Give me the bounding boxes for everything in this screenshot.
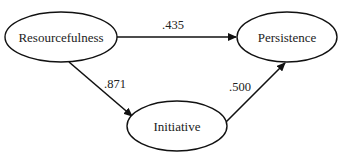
edge-label-coefficient: .435 (162, 18, 184, 32)
edge-label-coefficient: .871 (104, 77, 126, 91)
node-label: Initiative (154, 119, 201, 134)
edge-initiative-persistence: .500 (226, 63, 285, 122)
node-persistence: Persistence (237, 12, 337, 62)
edge-label-coefficient: .500 (229, 80, 251, 94)
edge-resourcefulness-persistence: .435 (117, 18, 236, 37)
edge-resourcefulness-initiative: .871 (69, 62, 132, 116)
path-diagram: .435 .871 .500 Resourcefulness Persisten… (0, 0, 351, 158)
node-label: Resourcefulness (18, 30, 103, 45)
node-initiative: Initiative (127, 101, 227, 151)
node-resourcefulness: Resourcefulness (5, 12, 117, 62)
node-label: Persistence (258, 30, 317, 45)
